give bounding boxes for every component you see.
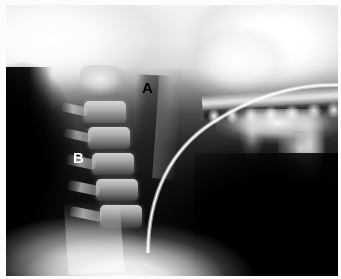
annotation-label-a: A — [142, 80, 153, 95]
radiograph-image: A B — [6, 5, 338, 276]
annotation-label-b: B — [73, 150, 84, 165]
radiograph-figure: A B — [0, 0, 341, 279]
film-grain-overlay — [6, 5, 338, 276]
